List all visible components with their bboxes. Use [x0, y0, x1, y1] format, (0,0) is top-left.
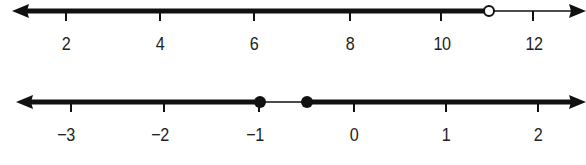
- number-lines-diagram: [0, 0, 586, 165]
- tick-label: 6: [249, 33, 259, 55]
- bottom-number-line: [16, 95, 586, 112]
- top-number-line: [12, 4, 586, 21]
- right-arrow-icon: [569, 95, 586, 109]
- tick-label: 10: [432, 33, 452, 55]
- tick-label: 2: [533, 124, 543, 146]
- closed-circle-point: [301, 96, 313, 108]
- tick-label: −3: [56, 124, 77, 146]
- tick-label: −2: [150, 124, 171, 146]
- closed-circle-point: [254, 96, 266, 108]
- left-arrow-icon: [16, 95, 33, 109]
- right-arrow-icon: [569, 4, 586, 18]
- tick-label: 0: [349, 124, 359, 146]
- left-arrow-icon: [12, 4, 29, 18]
- tick-label: 2: [61, 33, 71, 55]
- tick-label: 8: [345, 33, 355, 55]
- tick-label: 12: [524, 33, 544, 55]
- tick-label: −1: [245, 124, 266, 146]
- open-circle-point: [484, 6, 494, 16]
- tick-label: 4: [155, 33, 165, 55]
- tick-label: 1: [441, 124, 451, 146]
